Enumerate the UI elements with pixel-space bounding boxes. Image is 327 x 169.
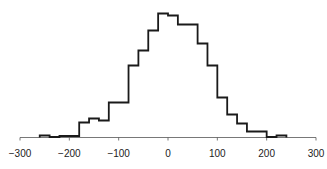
x-tick-label: 300 — [308, 148, 325, 159]
histogram-chart: −300−200−1000100200300 — [0, 0, 327, 169]
x-tick-label: 200 — [258, 148, 275, 159]
x-tick-label: 100 — [209, 148, 226, 159]
x-tick-label: −200 — [58, 148, 81, 159]
histogram-outline — [40, 14, 287, 138]
x-tick-label: −100 — [107, 148, 130, 159]
x-tick-label: −300 — [9, 148, 32, 159]
x-axis-ticks: −300−200−1000100200300 — [9, 138, 325, 160]
x-tick-label: 0 — [165, 148, 171, 159]
